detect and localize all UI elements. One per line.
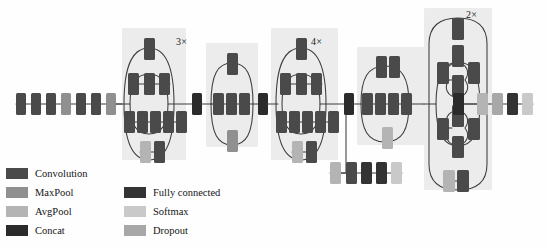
block-convolution: [46, 93, 56, 115]
block-softmax: [522, 93, 533, 115]
block-avgpool: [330, 162, 341, 184]
block-convolution: [302, 111, 313, 133]
block-convolution: [311, 73, 322, 95]
figure-canvas: .blk{stroke:none;} .conv{fill:#4a4a4a;} …: [0, 0, 546, 248]
legend-entry-dropout: Dropout: [124, 225, 188, 236]
legend-label-softmax: Softmax: [153, 206, 189, 217]
block-convolution: [468, 118, 480, 140]
block-convolution: [226, 93, 237, 115]
block-avgpool: [140, 141, 151, 163]
block-convolution: [401, 93, 412, 115]
block-convolution: [128, 73, 139, 95]
block-convolution: [346, 162, 357, 184]
block-convolution: [280, 73, 291, 95]
block-avgpool: [382, 127, 393, 149]
block-maxpool: [106, 93, 116, 115]
block-convolution: [31, 93, 41, 115]
block-convolution: [144, 73, 155, 95]
block-convolution: [296, 73, 307, 95]
block-convolution: [289, 111, 300, 133]
legend-swatch-dropout: [124, 225, 146, 236]
block-convolution: [437, 62, 449, 84]
legend-entry-softmax: Softmax: [124, 206, 189, 217]
block-maxpool: [61, 93, 71, 115]
legend-swatch-softmax: [124, 206, 146, 217]
block-convolution: [227, 53, 238, 75]
block-convolution: [388, 93, 399, 115]
block-maxpool: [227, 130, 238, 152]
block-convolution: [452, 136, 464, 158]
block-convolution: [154, 141, 165, 163]
legend-entry-convolution: Convolution: [6, 168, 88, 179]
block-convolution: [452, 18, 464, 40]
block-convolution: [76, 93, 86, 115]
block-avgpool: [443, 170, 455, 192]
block-convolution: [468, 62, 480, 84]
block-convolution: [124, 111, 135, 133]
block-convolution: [163, 111, 174, 133]
block-convolution: [437, 118, 449, 140]
block-convolution: [239, 93, 250, 115]
block-convolution: [137, 111, 148, 133]
legend-entry-concat: Concat: [6, 225, 65, 236]
block-convolution: [144, 38, 155, 60]
block-convolution: [213, 93, 224, 115]
repeat-label-2x: 2×: [466, 9, 477, 20]
legend-entry-fully-connected: Fully connected: [124, 187, 220, 198]
block-fully-connected: [376, 162, 387, 184]
legend-swatch-maxpool: [6, 187, 28, 198]
legend-swatch-convolution: [6, 168, 28, 179]
stage-auxiliary-classifier: [330, 162, 402, 184]
block-convolution: [452, 45, 464, 67]
legend-label-avgpool: AvgPool: [35, 206, 72, 217]
block-avgpool: [477, 93, 488, 115]
legend-entry-maxpool: MaxPool: [6, 187, 74, 198]
block-convolution: [296, 38, 307, 60]
block-convolution: [375, 93, 386, 115]
repeat-label-4x: 4×: [311, 36, 322, 47]
block-convolution: [389, 56, 400, 78]
block-dropout: [492, 93, 503, 115]
legend-entry-avgpool: AvgPool: [6, 206, 72, 217]
block-convolution: [457, 170, 469, 192]
legend-label-maxpool: MaxPool: [35, 187, 74, 198]
block-convolution: [16, 93, 26, 115]
block-convolution: [306, 141, 317, 163]
block-convolution: [328, 111, 339, 133]
block-convolution: [315, 111, 326, 133]
legend-label-concat: Concat: [35, 225, 65, 236]
block-convolution: [376, 56, 387, 78]
block-concat: [453, 93, 464, 115]
legend: Convolution MaxPool Fully connected AvgP…: [6, 168, 261, 242]
block-convolution: [150, 111, 161, 133]
block-convolution: [91, 93, 101, 115]
legend-label-dropout: Dropout: [153, 225, 188, 236]
legend-swatch-avgpool: [6, 206, 28, 217]
block-convolution: [362, 93, 373, 115]
block-convolution: [276, 111, 287, 133]
legend-swatch-concat: [6, 225, 28, 236]
legend-label-fully-connected: Fully connected: [153, 187, 220, 198]
block-convolution: [176, 111, 187, 133]
legend-label-convolution: Convolution: [35, 168, 88, 179]
block-softmax: [391, 162, 402, 184]
legend-swatch-fully-connected: [124, 187, 146, 198]
block-fully-connected: [361, 162, 372, 184]
repeat-label-3x: 3×: [176, 36, 187, 47]
block-fully-connected: [507, 93, 518, 115]
block-convolution: [159, 73, 170, 95]
stage-stem: [16, 93, 122, 115]
block-avgpool: [292, 141, 303, 163]
